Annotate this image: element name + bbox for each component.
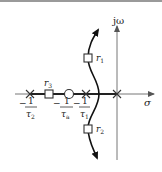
- root-label-r1: r1: [96, 53, 104, 64]
- svg-text:τa: τa: [61, 109, 70, 120]
- imag-axis-label: jω: [112, 15, 124, 26]
- svg-text:1: 1: [28, 96, 34, 106]
- root-locus-diagram: jω σ r1 r2 r3 − 1 τ2 − 1 τa − 1 τ1: [0, 0, 162, 172]
- pole-label-tau2: − 1 τ2: [19, 96, 37, 120]
- root-marker-r3: [45, 90, 53, 98]
- root-marker-r1: [84, 54, 92, 62]
- root-locus-plot: jω σ r1 r2 r3 − 1 τ2 − 1 τa − 1 τ1: [0, 0, 162, 172]
- root-label-r3: r3: [44, 78, 52, 89]
- svg-text:1: 1: [64, 96, 70, 106]
- root-marker-r2: [84, 125, 92, 133]
- svg-text:τ1: τ1: [80, 109, 89, 120]
- root-label-r2: r2: [96, 124, 104, 135]
- pole-label-tau1: − 1 τ1: [73, 96, 90, 120]
- svg-text:−: −: [19, 98, 27, 108]
- svg-text:τ2: τ2: [26, 109, 35, 120]
- zero-label-tau-a: − 1 τa: [53, 96, 73, 120]
- real-axis-label: σ: [144, 97, 152, 108]
- svg-text:1: 1: [82, 96, 88, 106]
- svg-text:−: −: [73, 98, 81, 108]
- svg-text:−: −: [53, 98, 61, 108]
